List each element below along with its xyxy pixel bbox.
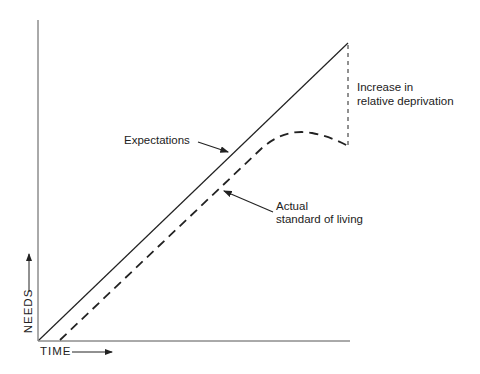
diagram-canvas	[0, 0, 480, 374]
actual-standard-line	[60, 132, 348, 340]
x-axis-label: TIME	[40, 345, 71, 357]
actual-label-line1: Actual	[276, 199, 308, 213]
expectations-label: Expectations	[124, 133, 190, 147]
gap-label-line2: relative deprivation	[357, 94, 454, 108]
expectations-line	[39, 43, 348, 340]
actual-arrow-icon	[224, 191, 273, 212]
y-axis-label: NEEDS	[22, 286, 34, 336]
actual-label-line2: standard of living	[276, 212, 363, 226]
gap-label-line1: Increase in	[357, 80, 413, 94]
expectations-arrow-icon	[198, 142, 228, 152]
